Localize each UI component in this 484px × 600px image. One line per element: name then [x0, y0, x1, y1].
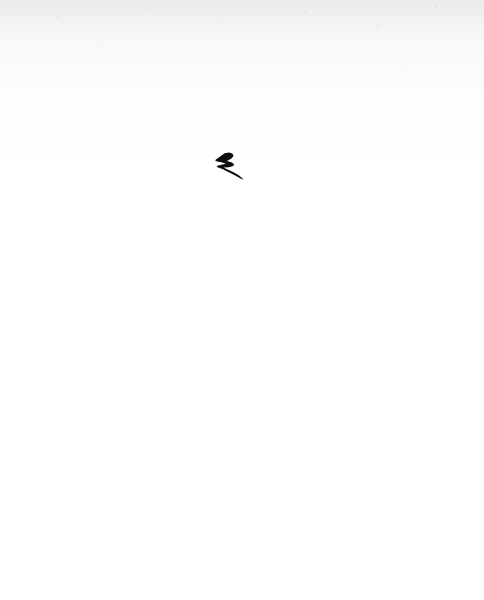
paper-tone-overlay [0, 0, 484, 600]
lightning-bolt-path [215, 152, 243, 179]
scanned-page [0, 0, 484, 600]
lightning-bolt-svg [212, 151, 244, 181]
lightning-bolt-icon [212, 151, 244, 181]
